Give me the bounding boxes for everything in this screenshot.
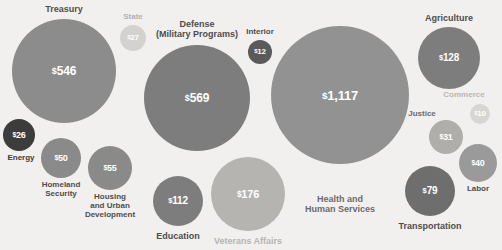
bubble-value-hud: $55 [103, 164, 116, 173]
bubble-defense[interactable]: $569 [144, 45, 250, 151]
currency-symbol: $ [12, 131, 16, 138]
currency-symbol: $ [237, 189, 241, 199]
currency-symbol: $ [168, 196, 172, 205]
bubble-value-defense: $569 [185, 92, 209, 104]
bubble-label-veterans-affairs: Veterans Affairs [0, 236, 499, 246]
currency-symbol: $ [474, 109, 477, 116]
bubble-value-veterans-affairs: $176 [237, 189, 259, 200]
bubble-value-labor: $40 [471, 159, 484, 168]
bubble-value-education: $112 [168, 196, 188, 206]
bubble-interior[interactable]: $12 [248, 40, 272, 64]
bubble-value-transportation: $79 [423, 186, 438, 196]
currency-symbol: $ [54, 154, 58, 161]
bubble-energy[interactable]: $26 [3, 119, 35, 151]
currency-symbol: $ [322, 89, 327, 100]
bubble-state[interactable]: $27 [120, 25, 146, 51]
bubble-value-energy: $26 [12, 131, 25, 140]
bubble-commerce[interactable]: $10 [470, 104, 490, 124]
bubble-veterans-affairs[interactable]: $176 [211, 157, 285, 231]
currency-symbol: $ [254, 47, 257, 54]
currency-symbol: $ [127, 33, 130, 40]
bubble-homeland-security[interactable]: $50 [41, 138, 81, 178]
bubble-treasury[interactable]: $546 [12, 19, 116, 123]
bubble-hud[interactable]: $55 [88, 146, 132, 190]
currency-symbol: $ [471, 159, 475, 166]
currency-symbol: $ [439, 133, 443, 140]
bubble-transportation[interactable]: $79 [405, 166, 455, 216]
bubble-agriculture[interactable]: $128 [418, 27, 480, 89]
bubble-value-commerce: $10 [474, 110, 486, 118]
bubble-value-interior: $12 [254, 48, 266, 56]
bubble-hhs[interactable]: $1,117 [271, 26, 409, 164]
currency-symbol: $ [439, 53, 443, 62]
bubble-education[interactable]: $112 [153, 176, 203, 226]
bubble-label-education: Education [0, 231, 429, 241]
bubble-label-line1-veterans-affairs: Veterans Affairs [0, 236, 499, 246]
bubble-chart: $546Treasury$27State$569Defense(Military… [0, 0, 502, 250]
bubble-labor[interactable]: $40 [459, 144, 497, 182]
bubble-label-line1-treasury: Treasury [0, 4, 315, 14]
bubble-value-agriculture: $128 [439, 53, 459, 63]
bubble-value-hhs: $1,117 [322, 89, 358, 102]
bubble-value-state: $27 [127, 34, 139, 42]
currency-symbol: $ [103, 164, 107, 171]
bubble-value-justice: $31 [439, 133, 452, 142]
bubble-label-line1-education: Education [0, 231, 429, 241]
bubble-value-treasury: $546 [52, 65, 76, 77]
currency-symbol: $ [52, 66, 57, 76]
bubble-label-line1-agriculture: Agriculture [198, 13, 502, 23]
bubble-value-homeland-security: $50 [54, 154, 67, 163]
currency-symbol: $ [185, 93, 190, 103]
currency-symbol: $ [423, 186, 427, 195]
bubble-justice[interactable]: $31 [429, 120, 463, 154]
bubble-label-agriculture: Agriculture [198, 13, 502, 23]
bubble-label-treasury: Treasury [0, 4, 315, 14]
